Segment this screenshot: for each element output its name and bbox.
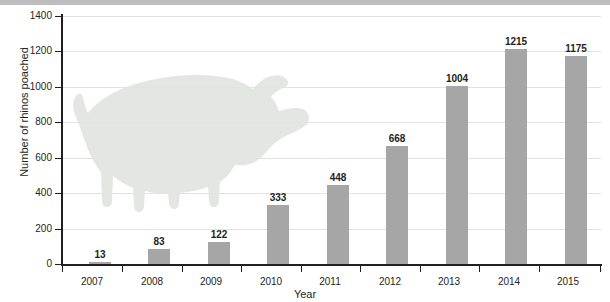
y-tick-label-600: 600 [8,153,52,163]
bar-value-label-2010: 333 [248,192,308,203]
y-tick-0 [55,264,62,265]
x-axis-line [61,264,602,266]
y-tick-label-0: 0 [8,259,52,269]
x-tick-label-2011: 2011 [300,276,360,287]
x-tick-sep-3 [241,266,242,272]
bar-value-label-2014: 1215 [486,36,546,47]
x-tick-label-2008: 2008 [122,276,182,287]
x-tick-sep-1 [122,266,123,272]
bar-2014 [505,49,527,264]
y-tick-label-1400: 1400 [8,11,52,21]
y-tick-label-800: 800 [8,117,52,127]
bar-value-label-2009: 122 [189,229,249,240]
y-tick-label-1200: 1200 [8,46,52,56]
x-axis-title: Year [0,288,610,300]
gridline-1400 [62,16,601,17]
x-tick-sep-9 [600,266,601,272]
x-tick-sep-5 [360,266,361,272]
y-tick-600 [55,158,62,159]
x-tick-label-2007: 2007 [62,276,122,287]
rhino-poaching-bar-chart: 1400 1200 1000 800 600 400 200 0 2007 20… [0,0,610,302]
x-tick-label-2009: 2009 [181,276,241,287]
bar-value-label-2013: 1004 [427,73,487,84]
x-tick-sep-2 [182,266,183,272]
y-tick-label-400: 400 [8,188,52,198]
y-tick-1000 [55,87,62,88]
plot-area [62,16,601,264]
x-tick-sep-8 [539,266,540,272]
header-strip [0,0,610,5]
y-tick-1200 [55,51,62,52]
bar-2015 [565,56,587,264]
x-tick-label-2012: 2012 [360,276,420,287]
y-tick-800 [55,122,62,123]
x-tick-sep-0 [62,266,63,272]
x-tick-label-2010: 2010 [241,276,301,287]
bar-value-label-2011: 448 [308,172,368,183]
x-tick-label-2013: 2013 [419,276,479,287]
y-tick-200 [55,229,62,230]
y-tick-label-1000: 1000 [8,82,52,92]
y-tick-1400 [55,16,62,17]
bar-2008 [148,249,170,264]
y-axis-title: Number of rhinos poached [18,2,30,222]
bar-2013 [446,86,468,264]
y-tick-label-200: 200 [8,224,52,234]
bar-2011 [327,185,349,264]
bar-value-label-2008: 83 [129,236,189,247]
bar-2010 [267,205,289,264]
bar-value-label-2015: 1175 [546,43,606,54]
bar-2009 [208,242,230,264]
x-tick-sep-7 [479,266,480,272]
bar-value-label-2012: 668 [367,133,427,144]
bar-2012 [386,146,408,264]
x-tick-label-2014: 2014 [479,276,539,287]
x-tick-label-2015: 2015 [538,276,598,287]
x-tick-sep-4 [301,266,302,272]
bar-value-label-2007: 13 [70,249,130,260]
y-tick-400 [55,193,62,194]
x-tick-sep-6 [420,266,421,272]
